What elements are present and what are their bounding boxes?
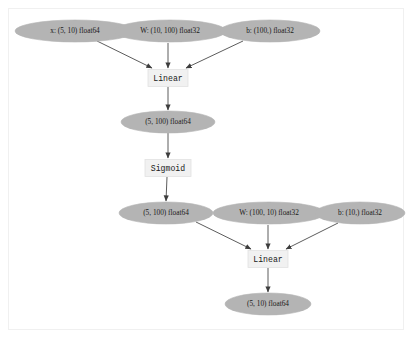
node-sigmoid[interactable]: Sigmoid [145, 160, 191, 177]
node-label-hidden: (5, 100) float64 [145, 117, 191, 126]
node-linear1[interactable]: Linear [148, 70, 188, 87]
node-label-linear2: Linear [253, 255, 283, 264]
edge-b1-to-linear1 [186, 41, 243, 68]
node-b2[interactable]: b: (10,) float32 [315, 202, 405, 224]
edges-layer [97, 41, 338, 292]
node-b1[interactable]: b: (100,) float32 [220, 20, 320, 42]
node-label-w2: W: (100, 10) float32 [239, 208, 299, 217]
node-act[interactable]: (5, 100) float64 [119, 202, 213, 224]
edge-x_in-to-linear1 [97, 41, 152, 68]
nodes-layer: x: (5, 10) float64W: (10, 100) float32b:… [15, 20, 405, 315]
node-label-w1: W: (10, 100) float32 [140, 26, 200, 35]
node-w2[interactable]: W: (100, 10) float32 [213, 202, 325, 224]
node-w1[interactable]: W: (10, 100) float32 [114, 20, 226, 42]
node-label-sigmoid: Sigmoid [151, 164, 185, 173]
node-output[interactable]: (5, 10) float64 [225, 293, 311, 315]
edge-b2-to-linear2 [286, 223, 338, 249]
node-label-b2: b: (10,) float32 [338, 208, 382, 217]
node-label-x_in: x: (5, 10) float64 [50, 26, 100, 35]
edge-act-to-linear2 [196, 222, 251, 249]
node-label-act: (5, 100) float64 [143, 208, 189, 217]
node-hidden[interactable]: (5, 100) float64 [121, 111, 215, 133]
node-label-b1: b: (100,) float32 [246, 26, 294, 35]
node-label-linear1: Linear [153, 74, 183, 83]
diagram-canvas: x: (5, 10) float64W: (10, 100) float32b:… [0, 0, 419, 339]
node-label-output: (5, 10) float64 [247, 299, 289, 308]
node-linear2[interactable]: Linear [248, 251, 288, 268]
computational-graph: x: (5, 10) float64W: (10, 100) float32b:… [0, 0, 419, 339]
edge-sigmoid-to-act [166, 177, 167, 201]
